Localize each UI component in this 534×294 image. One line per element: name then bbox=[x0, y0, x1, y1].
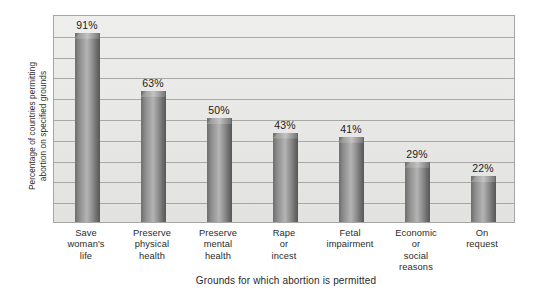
y-axis-title-line-2: abortion on specified grounds bbox=[38, 62, 49, 190]
bar bbox=[141, 91, 166, 222]
x-axis-tick-label-line: request bbox=[449, 239, 515, 250]
x-axis-tick-label-line: woman's bbox=[53, 239, 119, 250]
x-axis-tick-label-line: On bbox=[449, 228, 515, 239]
bar-group: 43% bbox=[273, 133, 298, 222]
bar-group: 63% bbox=[141, 91, 166, 222]
x-axis-tick-label-line: Preserve bbox=[119, 228, 185, 239]
x-axis-tick-label: Economicorsocialreasons bbox=[383, 228, 449, 274]
x-axis-tick-label-line: Save bbox=[53, 228, 119, 239]
bar bbox=[405, 162, 430, 222]
bar-value-label: 43% bbox=[274, 119, 296, 131]
bar-top-bevel bbox=[405, 162, 430, 168]
x-axis-tick-label: Savewoman'slife bbox=[53, 228, 119, 262]
bar bbox=[339, 137, 364, 222]
plot-area: 91%63%50%43%41%29%22% bbox=[53, 15, 515, 223]
bar-top-bevel bbox=[141, 91, 166, 97]
bar-group: 41% bbox=[339, 137, 364, 222]
bar-value-label: 63% bbox=[142, 77, 164, 89]
x-axis-tick-label: Onrequest bbox=[449, 228, 515, 251]
x-axis-tick-label-line: incest bbox=[251, 251, 317, 262]
x-axis-tick-label-line: Fetal bbox=[317, 228, 383, 239]
x-axis-tick-label-line: social bbox=[383, 251, 449, 262]
bar bbox=[75, 33, 100, 222]
x-axis-tick-label-line: Preserve bbox=[185, 228, 251, 239]
x-axis-tick-label: Preservephysicalhealth bbox=[119, 228, 185, 262]
x-axis-tick-label-line: mental bbox=[185, 239, 251, 250]
x-axis-tick-label-line: impairment bbox=[317, 239, 383, 250]
bar-top-bevel bbox=[207, 118, 232, 124]
bar bbox=[273, 133, 298, 222]
x-axis-tick-label-line: Economic bbox=[383, 228, 449, 239]
bar-value-label: 50% bbox=[208, 104, 230, 116]
bar bbox=[207, 118, 232, 222]
x-axis-title: Grounds for which abortion is permitted bbox=[0, 275, 534, 286]
bar-top-bevel bbox=[471, 176, 496, 182]
x-axis-tick-label-line: or bbox=[251, 239, 317, 250]
bar-top-bevel bbox=[75, 33, 100, 39]
bar-top-bevel bbox=[273, 133, 298, 139]
x-axis-tick-label-line: health bbox=[185, 251, 251, 262]
bar-group: 50% bbox=[207, 118, 232, 222]
bar-group: 91% bbox=[75, 33, 100, 222]
bar-top-bevel bbox=[339, 137, 364, 143]
bar-group: 22% bbox=[471, 176, 496, 222]
y-axis-title-line-1: Percentage of countries permitting bbox=[27, 62, 38, 190]
x-axis-tick-label-line: life bbox=[53, 251, 119, 262]
bar-value-label: 41% bbox=[340, 123, 362, 135]
bar bbox=[471, 176, 496, 222]
bar-chart-figure: Percentage of countries permitting abort… bbox=[0, 0, 534, 294]
bar-group: 29% bbox=[405, 162, 430, 222]
x-axis-tick-label: Preservementalhealth bbox=[185, 228, 251, 262]
bar-value-label: 91% bbox=[76, 19, 98, 31]
bar-series: 91%63%50%43%41%29%22% bbox=[54, 16, 514, 222]
x-axis-tick-label-line: Rape bbox=[251, 228, 317, 239]
x-axis-tick-label: Rapeorincest bbox=[251, 228, 317, 262]
x-axis-tick-label-line: or bbox=[383, 239, 449, 250]
x-axis-tick-labels: Savewoman'slifePreservephysicalhealthPre… bbox=[53, 228, 515, 276]
bar-value-label: 29% bbox=[406, 148, 428, 160]
x-axis-tick-label-line: physical bbox=[119, 239, 185, 250]
x-axis-tick-label: Fetalimpairment bbox=[317, 228, 383, 251]
x-axis-tick-label-line: reasons bbox=[383, 262, 449, 273]
y-axis-title: Percentage of countries permitting abort… bbox=[24, 30, 52, 222]
bar-value-label: 22% bbox=[472, 162, 494, 174]
x-axis-tick-label-line: health bbox=[119, 251, 185, 262]
